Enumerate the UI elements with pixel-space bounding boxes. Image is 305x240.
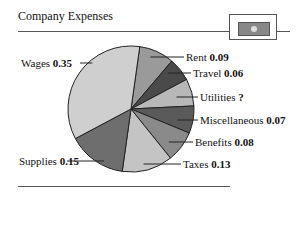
label-rent: Rent 0.09 [186,51,229,63]
label-benefits: Benefits 0.08 [195,136,254,148]
label-utilities: Utilities ? [200,91,244,103]
footer-divider [18,186,230,187]
label-supplies: Supplies 0.15 [19,155,79,167]
label-taxes: Taxes 0.13 [183,158,231,170]
label-miscellaneous: Miscellaneous 0.07 [200,114,286,126]
label-wages: Wages 0.35 [21,57,72,69]
label-travel: Travel 0.06 [193,67,243,79]
